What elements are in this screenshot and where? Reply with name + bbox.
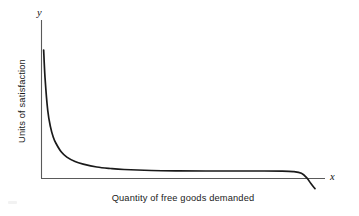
y-axis-title: Units of satisfaction <box>17 21 31 181</box>
x-axis-title: Quantity of free goods demanded <box>41 193 325 203</box>
scan-artifact-speck <box>8 201 17 204</box>
chart-plot-area <box>0 0 359 216</box>
satisfaction-curve <box>44 50 315 189</box>
figure-container: y x Units of satisfaction Quantity of fr… <box>0 0 359 216</box>
y-axis-variable-label: y <box>37 8 42 19</box>
x-axis-variable-label: x <box>330 172 335 183</box>
